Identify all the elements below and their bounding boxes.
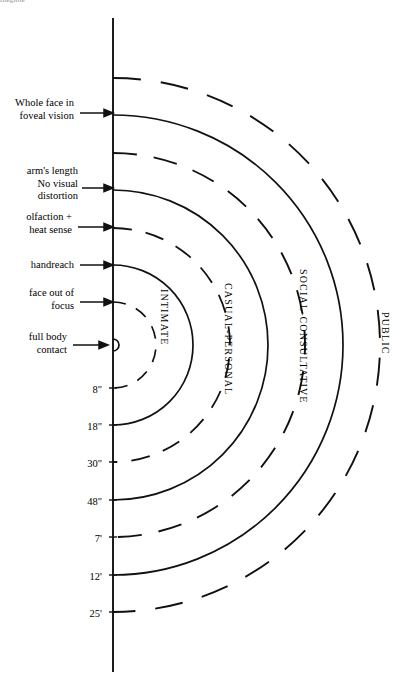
sensory-label-face-out-of-focus: face out of focus bbox=[0, 287, 74, 312]
zone-label-social-consultative: SOCIAL-CONSULTATIVE bbox=[298, 269, 309, 404]
distance-label-25ft: 25' bbox=[68, 608, 102, 619]
distance-label-48in: 48" bbox=[68, 496, 102, 507]
distance-label-12ft: 12' bbox=[68, 571, 102, 582]
sensory-label-handreach: handreach bbox=[0, 259, 74, 272]
arc-48in bbox=[113, 190, 268, 500]
proxemics-diagram: illegible bbox=[0, 0, 410, 690]
distance-label-7ft: 7' bbox=[68, 533, 102, 544]
arc-30in bbox=[113, 228, 230, 462]
arrow-handreach bbox=[80, 261, 113, 268]
arc-18in bbox=[113, 265, 193, 425]
distance-label-18in: 18" bbox=[68, 421, 102, 432]
arrow-olfaction bbox=[78, 223, 113, 230]
sensory-label-olfaction: olfaction + heat sense bbox=[0, 211, 72, 236]
arc-7ft bbox=[113, 153, 305, 537]
zone-label-public: PUBLIC bbox=[380, 312, 391, 354]
arrow-face-out-of-focus bbox=[80, 298, 113, 305]
sensory-label-foveal-vision: Whole face in foveal vision bbox=[0, 97, 74, 122]
arrow-arms-length bbox=[82, 184, 113, 191]
distance-label-8in: 8" bbox=[68, 384, 102, 395]
arrow-full-body-contact bbox=[73, 341, 108, 348]
zone-label-casual-personal: CASUAL-PERSONAL bbox=[223, 283, 234, 395]
sensory-label-full-body-contact: full body contact bbox=[0, 331, 67, 356]
arrow-foveal-vision bbox=[80, 109, 113, 116]
zone-label-intimate: INTIMATE bbox=[159, 289, 170, 345]
sensory-label-arms-length: arm's length No visual distortion bbox=[0, 165, 78, 203]
distance-label-30in: 30" bbox=[68, 458, 102, 469]
